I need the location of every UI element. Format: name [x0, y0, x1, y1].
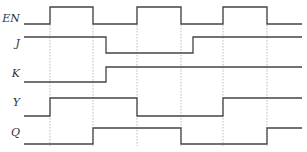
waveform-en	[24, 7, 302, 24]
waveform-k	[24, 67, 302, 82]
waveform-canvas	[0, 0, 307, 152]
timing-diagram: EN J K Y Q	[0, 0, 307, 152]
waveform-j	[24, 37, 302, 53]
waveform-y	[24, 98, 302, 116]
guide-lines	[50, 7, 267, 146]
waveform-q	[24, 128, 302, 144]
